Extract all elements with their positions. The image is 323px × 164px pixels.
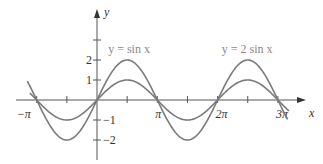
function-label: y = 2 sin x [222, 42, 273, 56]
tick-marks: −ππ2π3π21−1−2 [17, 40, 289, 147]
y-tick-label: −1 [103, 113, 116, 127]
y-tick-label: 1 [86, 73, 92, 87]
x-axis-label: x [308, 106, 315, 120]
y-tick-label: −2 [103, 133, 116, 147]
x-axis-arrow-icon [297, 97, 306, 103]
sine-graph: x y −ππ2π3π21−1−2 y = sin xy = 2 sin x [0, 0, 323, 164]
x-tick-label: −π [17, 107, 32, 121]
x-tick-label: 2π [216, 107, 229, 121]
y-axis-label: y [103, 5, 110, 19]
y-tick-label: 2 [86, 53, 92, 67]
function-label: y = sin x [108, 42, 150, 56]
axes: x y [16, 5, 315, 160]
y-axis-arrow-icon [94, 9, 100, 18]
function-labels: y = sin xy = 2 sin x [108, 42, 272, 56]
